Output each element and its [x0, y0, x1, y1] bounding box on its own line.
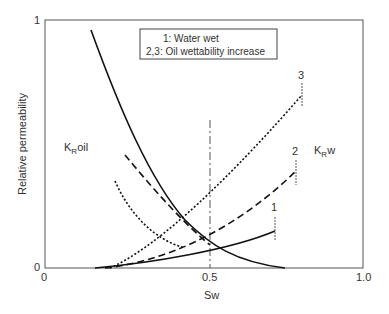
legend-entry-1: 1: Water wet	[163, 33, 219, 44]
y-tick-1: 1	[34, 14, 40, 26]
krw-curve-3	[110, 95, 302, 268]
curve-label-3: 3	[298, 69, 304, 81]
kroil-curve-1	[91, 30, 285, 268]
legend-entry-2: 2,3: Oil wettability increase	[146, 46, 265, 57]
y-tick-0: 0	[34, 261, 40, 273]
x-tick-0-5: 0.5	[202, 271, 217, 283]
x-tick-1-0: 1.0	[356, 271, 371, 283]
krw-curve-2	[105, 171, 296, 268]
x-axis-title: Sw	[204, 289, 219, 301]
kroil-curve-3	[115, 181, 185, 248]
relative-permeability-chart: 1: Water wet 2,3: Oil wettability increa…	[0, 0, 389, 314]
krw-label: KRw	[314, 144, 335, 159]
y-axis-title: Relative permeability	[16, 92, 28, 195]
curve-label-2: 2	[292, 145, 298, 157]
kroil-label: KRoil	[64, 141, 88, 156]
curve-label-1: 1	[271, 201, 277, 213]
x-tick-0: 0	[41, 271, 47, 283]
